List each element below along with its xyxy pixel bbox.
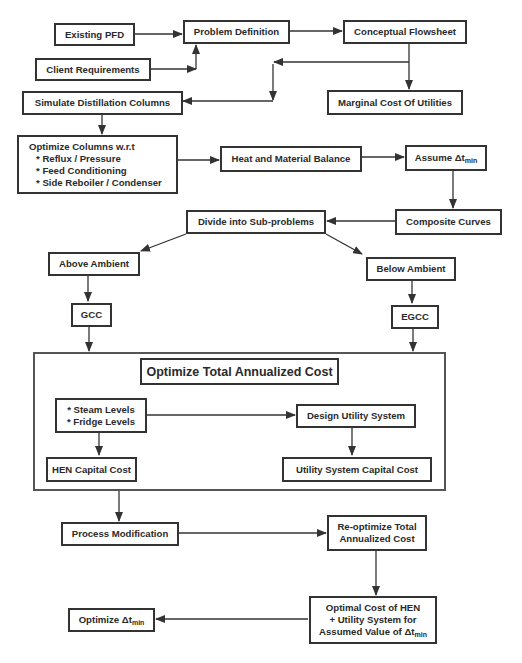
simulate-distillation-node: Simulate Distillation Columns bbox=[22, 91, 183, 115]
existing-pfd-node: Existing PFD bbox=[54, 23, 135, 46]
optimize-columns-title: Optimize Columns w.r.t bbox=[29, 141, 162, 153]
optimize-dtmin-node: Optimize Δtmin bbox=[68, 608, 155, 632]
criterion-item: * Feed Conditioning bbox=[29, 165, 162, 177]
divide-subproblems-node: Divide into Sub-problems bbox=[186, 210, 326, 234]
delta-t-symbol: Δt bbox=[455, 152, 465, 163]
level-item: * Fridge Levels bbox=[67, 416, 135, 428]
node-label-line: Assumed Value of Δtmin bbox=[319, 626, 427, 638]
node-label: Problem Definition bbox=[194, 26, 279, 38]
criterion-item: * Side Reboiler / Condenser bbox=[29, 177, 162, 189]
node-label: Assume Δtmin bbox=[415, 152, 478, 164]
reoptimize-node: Re-optimize Total Annualized Cost bbox=[327, 515, 427, 551]
optimal-cost-node: Optimal Cost of HEN + Utility System for… bbox=[309, 596, 437, 644]
node-label: Optimize Total Annualized Cost bbox=[146, 366, 332, 378]
design-utility-node: Design Utility System bbox=[296, 404, 416, 428]
node-label: Composite Curves bbox=[406, 216, 491, 228]
utility-capital-node: Utility System Capital Cost bbox=[282, 457, 432, 482]
node-label: Marginal Cost Of Utilities bbox=[338, 97, 452, 109]
node-label: Process Modification bbox=[72, 528, 169, 540]
client-requirements-node: Client Requirements bbox=[35, 58, 151, 81]
marginal-cost-node: Marginal Cost Of Utilities bbox=[327, 90, 463, 115]
egcc-node: EGCC bbox=[391, 305, 439, 329]
below-ambient-node: Below Ambient bbox=[366, 257, 456, 281]
node-label: Conceptual Flowsheet bbox=[354, 26, 456, 38]
node-label: Utility System Capital Cost bbox=[296, 464, 418, 476]
above-ambient-node: Above Ambient bbox=[48, 252, 140, 276]
node-label-line: Optimal Cost of HEN bbox=[319, 602, 427, 614]
node-label: Above Ambient bbox=[59, 258, 129, 270]
level-item: * Steam Levels bbox=[67, 404, 135, 416]
node-label: Simulate Distillation Columns bbox=[35, 97, 170, 109]
optimize-total-cost-node: Optimize Total Annualized Cost bbox=[140, 358, 339, 385]
node-label-line: Re-optimize Total bbox=[337, 521, 416, 533]
delta-t-symbol: Δt bbox=[122, 614, 132, 625]
node-label: Heat and Material Balance bbox=[232, 153, 351, 165]
assume-dtmin-node: Assume Δtmin bbox=[405, 145, 487, 171]
hen-capital-node: HEN Capital Cost bbox=[46, 457, 137, 482]
heat-material-balance-node: Heat and Material Balance bbox=[220, 146, 362, 172]
optimize-columns-node: Optimize Columns w.r.t * Reflux / Pressu… bbox=[17, 135, 178, 194]
gcc-node: GCC bbox=[71, 303, 112, 327]
process-modification-node: Process Modification bbox=[61, 522, 179, 546]
node-label: GCC bbox=[81, 309, 102, 321]
node-label: HEN Capital Cost bbox=[52, 464, 131, 476]
node-label-line: + Utility System for bbox=[319, 614, 427, 626]
node-label-line: Annualized Cost bbox=[337, 533, 416, 545]
node-label: EGCC bbox=[401, 311, 429, 323]
node-label: Design Utility System bbox=[307, 410, 405, 422]
steam-fridge-levels-node: * Steam Levels * Fridge Levels bbox=[55, 398, 147, 433]
conceptual-flowsheet-node: Conceptual Flowsheet bbox=[343, 20, 467, 44]
node-label: Client Requirements bbox=[46, 64, 139, 76]
criterion-item: * Reflux / Pressure bbox=[29, 153, 162, 165]
problem-definition-node: Problem Definition bbox=[183, 20, 290, 44]
node-label: Below Ambient bbox=[377, 263, 446, 275]
delta-t-symbol: Δt bbox=[404, 626, 414, 637]
node-label: Optimize Δtmin bbox=[79, 614, 145, 626]
node-label: Divide into Sub-problems bbox=[198, 216, 314, 228]
composite-curves-node: Composite Curves bbox=[395, 209, 502, 235]
node-label: Existing PFD bbox=[65, 29, 124, 41]
